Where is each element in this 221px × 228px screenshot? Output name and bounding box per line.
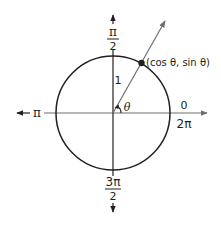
- label-bottom-numerator: 3π: [106, 175, 121, 189]
- label-bottom-denominator: 2: [110, 190, 117, 203]
- label-2pi: 2π: [177, 117, 192, 131]
- unit-circle-diagram: π 2 3π 2 π 0 2π 1 θ (cos θ, sin θ): [0, 0, 221, 228]
- label-top-numerator: π: [109, 25, 117, 39]
- label-radius: 1: [115, 74, 122, 87]
- label-pi: π: [33, 106, 41, 120]
- label-zero: 0: [181, 99, 188, 112]
- label-pi-over-2: π 2: [107, 25, 119, 53]
- label-top-denominator: 2: [110, 40, 117, 53]
- label-theta: θ: [124, 101, 131, 114]
- label-3pi-over-2: 3π 2: [105, 175, 121, 203]
- label-point-coordinates: (cos θ, sin θ): [146, 57, 210, 68]
- point-on-circle: [138, 60, 144, 66]
